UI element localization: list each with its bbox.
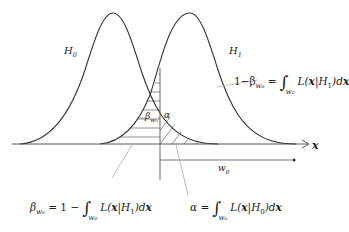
w0-arrowhead-icon [292,158,295,161]
beta-equation: βw₀ = 1 − ∫w₀L(x|H1)dx [30,195,152,216]
w0-label: w0 [218,163,229,175]
h0-label: H0 [64,45,77,59]
alpha-region-label: α [164,110,170,120]
alpha-leader-line [176,145,188,195]
alpha-equation: α = ∫w₀L(x|H0)dx [190,195,282,216]
x-axis-label: x [312,139,319,152]
beta-region-label: βw₀ [145,111,158,123]
power-equation: 1−βw₀ = ∫w₀L(x|H1)dx [234,69,349,90]
h0-curve [20,13,218,144]
hypothesis-test-diagram: H0 H1 x w0 βw₀ α 1−βw₀ = ∫w₀L(x|H1)dx βw… [0,0,349,232]
beta-leader-line [112,145,132,178]
beta-region-hatch [95,74,165,137]
h1-label: H1 [229,45,242,59]
